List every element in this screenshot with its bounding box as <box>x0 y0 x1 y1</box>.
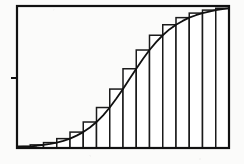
riemann-rectangle <box>150 35 163 148</box>
riemann-sum-plot <box>0 0 244 164</box>
riemann-rectangle <box>216 8 229 148</box>
riemann-rectangle <box>163 25 176 148</box>
figure-root <box>0 0 244 164</box>
bars-group <box>17 8 229 148</box>
riemann-rectangle <box>83 122 96 148</box>
riemann-rectangle <box>70 132 83 148</box>
riemann-rectangle <box>176 18 189 148</box>
riemann-rectangle <box>97 108 110 148</box>
riemann-rectangle <box>123 69 136 148</box>
riemann-rectangle <box>203 10 216 148</box>
riemann-rectangle <box>189 13 202 148</box>
